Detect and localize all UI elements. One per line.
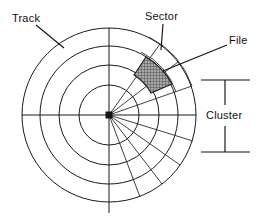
disk-platter-diagram: Track Sector File Cluster (0, 0, 264, 218)
file-leader-line (163, 45, 227, 71)
sector-line-6 (109, 115, 162, 184)
file-shaded-region (134, 57, 172, 93)
sector-line-7 (109, 115, 140, 197)
file-label: File (229, 34, 248, 46)
track-label: Track (12, 12, 40, 24)
cluster-label: Cluster (206, 109, 242, 121)
sector-line-4 (109, 115, 193, 141)
axis-lines (22, 28, 196, 213)
sector-label: Sector (145, 10, 178, 22)
file-cluster-cell (134, 57, 172, 93)
platter-hub (106, 112, 112, 118)
disk-diagram-figure: Track Sector File Cluster (0, 0, 264, 218)
sector-line-5 (109, 115, 180, 165)
track-leader-line (36, 25, 64, 48)
